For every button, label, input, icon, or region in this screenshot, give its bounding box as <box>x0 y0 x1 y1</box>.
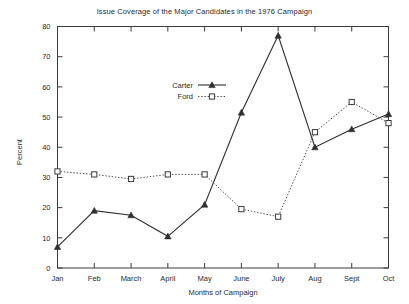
data-point-ford <box>312 130 317 135</box>
x-tick-label: Feb <box>88 274 101 283</box>
data-point-ford <box>92 172 97 177</box>
x-tick-label: Aug <box>308 274 321 283</box>
x-tick-label: Oct <box>383 274 396 283</box>
y-tick-label: 20 <box>42 203 50 212</box>
x-tick-label: Jan <box>51 274 63 283</box>
data-point-ford <box>165 172 170 177</box>
series-line-carter <box>58 36 389 247</box>
x-tick-label: April <box>160 274 175 283</box>
data-point-carter <box>385 111 391 117</box>
y-tick-label: 0 <box>46 264 50 273</box>
data-point-carter <box>238 109 244 115</box>
y-tick-label: 10 <box>42 234 50 243</box>
x-axis-title: Months of Campaign <box>188 288 257 297</box>
y-tick-label: 40 <box>42 143 50 152</box>
chart-container: Issue Coverage of the Major Candidates i… <box>0 0 409 304</box>
data-point-ford <box>202 172 207 177</box>
data-point-ford <box>386 121 391 126</box>
data-point-carter <box>91 207 97 213</box>
x-tick-label: March <box>121 274 142 283</box>
data-point-ford <box>128 176 133 181</box>
y-axis-labels: 01020304050607080 <box>42 22 50 272</box>
data-point-ford <box>276 214 281 219</box>
y-tick-label: 80 <box>42 22 50 31</box>
legend-label-carter: Carter <box>172 81 193 90</box>
x-tick-label: June <box>233 274 249 283</box>
y-axis-tick-group <box>58 27 389 269</box>
y-tick-label: 60 <box>42 83 50 92</box>
y-axis-title: Percent <box>15 138 24 165</box>
data-series-layer <box>54 32 391 249</box>
y-tick-label: 50 <box>42 113 50 122</box>
chart-plot-area: 01020304050607080 JanFebMarchAprilMayJun… <box>0 0 409 304</box>
plot-frame <box>58 27 389 269</box>
x-tick-label: May <box>198 274 212 283</box>
y-tick-label: 70 <box>42 52 50 61</box>
legend-label-ford: Ford <box>178 92 193 101</box>
data-point-carter <box>349 126 355 132</box>
data-point-carter <box>201 201 207 207</box>
x-tick-label: July <box>271 274 285 283</box>
data-point-ford <box>349 99 354 104</box>
y-tick-label: 30 <box>42 173 50 182</box>
x-axis-labels: JanFebMarchAprilMayJuneJulyAugSeptOct <box>51 274 395 283</box>
chart-legend: CarterFord <box>172 81 226 102</box>
data-point-ford <box>55 169 60 174</box>
data-point-ford <box>239 207 244 212</box>
data-point-carter <box>312 144 318 150</box>
x-tick-label: Sept <box>344 274 360 283</box>
x-axis-tick-group <box>58 27 389 269</box>
data-point-carter <box>275 32 281 38</box>
legend-marker-ford <box>209 94 214 99</box>
